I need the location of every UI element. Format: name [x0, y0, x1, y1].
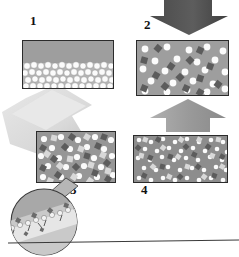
panel-2-content	[137, 41, 229, 96]
panel-1	[22, 40, 114, 89]
panel-4	[133, 135, 228, 183]
panel-1-content	[23, 41, 114, 89]
baseline-rule	[0, 234, 239, 248]
panel-3-content	[37, 132, 116, 183]
arrow-down-to-panel-2	[150, 0, 230, 36]
figure-canvas: 1	[0, 0, 239, 257]
panel-4-label: 4	[141, 183, 148, 196]
arrow-up-to-panel-2	[150, 99, 228, 133]
panel-3	[36, 131, 116, 183]
panel-2-label: 2	[144, 18, 151, 31]
panel-1-label: 1	[30, 14, 37, 27]
panel-4-content	[134, 136, 228, 183]
panel-2	[136, 40, 229, 96]
